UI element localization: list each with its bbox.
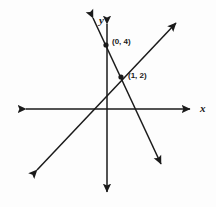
point-a-label: (0, 4) (112, 38, 131, 46)
point-b-label: (1, 2) (128, 72, 147, 80)
point-a-dot (103, 42, 108, 47)
coordinate-plane-figure: y x (0, 4) (1, 2) (0, 0, 216, 207)
graph-canvas (0, 0, 216, 207)
point-b-dot (118, 74, 123, 79)
y-axis-label: y (99, 15, 104, 26)
x-axis-label: x (200, 103, 206, 114)
